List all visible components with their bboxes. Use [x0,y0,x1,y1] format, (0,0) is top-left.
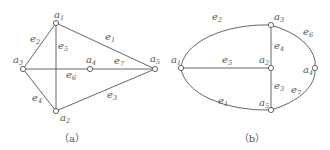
figure-a: a1 a2 a3 a4 a5 e1 e2 e3 e4 e5 e6 e7 （a） [13,9,160,144]
edge-label-b-e5: e5 [222,54,232,67]
edge-label-b-e4: e4 [274,40,284,53]
vertex-label-a-a4: a4 [86,54,96,67]
vertex-b-a4 [312,65,317,70]
edge-label-b-e3: e3 [274,80,284,93]
vertex-label-a-a3: a3 [13,54,23,67]
vertex-a-a3 [20,66,25,71]
vertex-label-b-a5: a5 [259,97,269,110]
vertex-a-a1 [53,20,58,25]
edge-label-b-e6: e6 [303,26,313,39]
vertex-label-b-a1: a1 [171,54,181,67]
edge-label-a-e3: e3 [107,89,117,102]
edge-a-e1 [56,23,155,69]
vertex-label-b-a3: a3 [274,11,284,24]
caption-b: （b） [239,133,265,144]
edge-label-b-e7: e7 [291,84,302,97]
vertex-a-a5 [152,66,157,71]
figure-b: a1 a2 a3 a4 a5 e1 e2 e3 e4 e5 e6 e7 （b） [171,11,318,144]
vertex-b-a5 [268,107,273,112]
edge-label-a-e4: e4 [32,92,42,105]
vertex-b-a2 [268,65,273,70]
vertex-label-a-a5: a5 [150,53,160,66]
edge-label-a-e1: e1 [105,31,115,44]
vertex-label-b-a4: a4 [303,64,313,77]
edge-label-b-e1: e1 [218,95,228,108]
graph-figures: a1 a2 a3 a4 a5 e1 e2 e3 e4 e5 e6 e7 （a） … [0,0,330,150]
vertex-label-b-a2: a2 [259,54,269,67]
vertex-a-a2 [53,108,58,113]
edge-label-a-e6: e6 [66,69,76,82]
edge-label-b-e2: e2 [212,11,222,24]
caption-a: （a） [59,133,85,144]
edge-label-a-e2: e2 [30,33,40,46]
vertex-a-a4 [87,66,92,71]
edge-a-e2 [23,23,56,69]
vertex-b-a3 [268,22,273,27]
edge-label-a-e7: e7 [114,55,125,68]
edge-label-a-e5: e5 [58,40,68,53]
vertex-label-a-a2: a2 [60,112,70,125]
